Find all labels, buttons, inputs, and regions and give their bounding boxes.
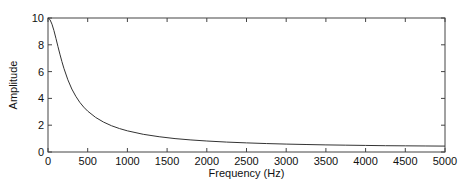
x-tick-label: 2500 <box>234 155 258 167</box>
x-tick-label: 4000 <box>353 155 377 167</box>
y-tick-label: 6 <box>38 66 44 78</box>
y-axis-tick-labels: 0246810 <box>32 12 44 158</box>
x-tick-label: 1000 <box>115 155 139 167</box>
y-tick-label: 4 <box>38 92 44 104</box>
x-tick-label: 500 <box>79 155 97 167</box>
series-line-amplitude-response <box>48 18 445 146</box>
x-tick-label: 2000 <box>195 155 219 167</box>
x-tick-label: 1500 <box>155 155 179 167</box>
x-tick-label: 0 <box>45 155 51 167</box>
series-layer <box>48 18 445 146</box>
x-axis-ticks <box>48 18 445 152</box>
x-tick-label: 3000 <box>274 155 298 167</box>
y-tick-label: 8 <box>38 39 44 51</box>
y-tick-label: 10 <box>32 12 44 24</box>
x-axis-title: Frequency (Hz) <box>209 167 285 179</box>
x-axis-tick-labels: 0500100015002000250030003500400045005000 <box>45 155 457 167</box>
plot-frame <box>48 18 445 152</box>
y-axis-title: Amplitude <box>7 61 19 110</box>
chart: 0500100015002000250030003500400045005000… <box>0 0 476 192</box>
x-tick-label: 3500 <box>314 155 338 167</box>
x-tick-label: 5000 <box>433 155 457 167</box>
y-axis-ticks <box>48 18 445 152</box>
y-tick-label: 2 <box>38 119 44 131</box>
x-tick-label: 4500 <box>393 155 417 167</box>
y-tick-label: 0 <box>38 146 44 158</box>
plot-area: 0500100015002000250030003500400045005000… <box>32 12 457 167</box>
